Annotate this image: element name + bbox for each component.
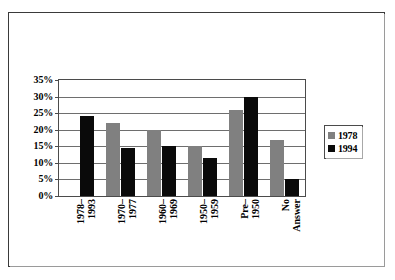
- bar-chart: 0%5%10%15%20%25%30%35% 1978–19931970–197…: [9, 13, 386, 268]
- legend-item-1978[interactable]: 1978: [328, 129, 357, 142]
- bar-group: [182, 80, 223, 196]
- bar-1994-3[interactable]: [203, 158, 217, 196]
- y-tick-label: 5%: [38, 174, 53, 184]
- bar-1994-0[interactable]: [80, 116, 94, 196]
- y-tick-label: 35%: [34, 75, 53, 85]
- x-tick-label: 1959: [210, 199, 221, 219]
- bar-group: [223, 80, 264, 196]
- bar-1978-2[interactable]: [147, 130, 161, 196]
- y-tick-label: 15%: [34, 141, 53, 151]
- x-tick-label: 1978–: [76, 199, 87, 224]
- figure-frame: 0%5%10%15%20%25%30%35% 1978–19931970–197…: [8, 12, 385, 267]
- bars-layer: [59, 80, 305, 196]
- black-swatch-icon: [328, 145, 335, 152]
- bar-1978-5[interactable]: [270, 140, 284, 196]
- y-axis: 0%5%10%15%20%25%30%35%: [9, 79, 53, 197]
- bar-1978-4[interactable]: [229, 110, 243, 196]
- legend-item-1994[interactable]: 1994: [328, 142, 357, 155]
- legend-label: 1994: [338, 144, 357, 154]
- chart-legend: 19781994: [324, 125, 363, 159]
- x-tick-label: Pre–: [240, 199, 251, 219]
- bar-group: [100, 80, 141, 196]
- bar-1994-4[interactable]: [244, 97, 258, 196]
- y-tick-label: 0%: [38, 191, 53, 201]
- bar-1994-1[interactable]: [121, 148, 135, 196]
- bar-group: [264, 80, 305, 196]
- bar-group: [59, 80, 100, 196]
- x-axis: 1978–19931970–19771960–19691950–1959Pre–…: [59, 199, 305, 265]
- y-tick-mark: [55, 196, 59, 197]
- x-tick-label: 1977: [128, 199, 139, 219]
- gray-swatch-icon: [328, 132, 335, 139]
- bar-group: [141, 80, 182, 196]
- bar-1978-1[interactable]: [106, 123, 120, 196]
- bar-1978-3[interactable]: [188, 146, 202, 196]
- bar-1994-5[interactable]: [285, 179, 299, 196]
- y-tick-label: 25%: [34, 108, 53, 118]
- x-tick-label: 1950: [251, 199, 262, 219]
- x-tick-label: No: [281, 199, 292, 211]
- x-tick-label: 1950–: [199, 199, 210, 224]
- x-tick-label: 1969: [169, 199, 180, 219]
- x-tick-label: Answer: [292, 199, 303, 232]
- legend-label: 1978: [338, 131, 357, 141]
- x-tick-label: 1970–: [117, 199, 128, 224]
- y-tick-label: 10%: [34, 158, 53, 168]
- bar-1994-2[interactable]: [162, 146, 176, 196]
- y-tick-label: 20%: [34, 125, 53, 135]
- x-tick-label: 1960–: [158, 199, 169, 224]
- y-tick-label: 30%: [34, 92, 53, 102]
- x-tick-label: 1993: [87, 199, 98, 219]
